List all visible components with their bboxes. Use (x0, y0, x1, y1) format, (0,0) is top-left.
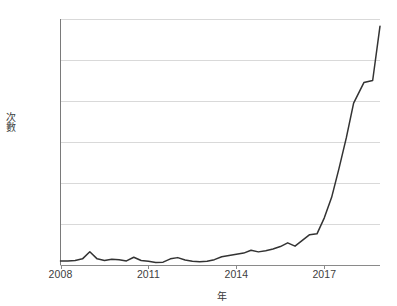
x-axis-tick-label: 2014 (216, 268, 256, 280)
line-chart: 02004006008001,0001,200 次數 年 20082011201… (0, 0, 397, 306)
x-axis-tick-label: 2011 (128, 268, 168, 280)
x-axis-tick-label: 2017 (304, 268, 344, 280)
plot-area (0, 0, 397, 306)
gridlines (61, 20, 381, 266)
data-series-line (61, 26, 381, 262)
x-axis-tick-label: 2008 (41, 268, 81, 280)
x-axis-title: 年 (202, 288, 242, 303)
